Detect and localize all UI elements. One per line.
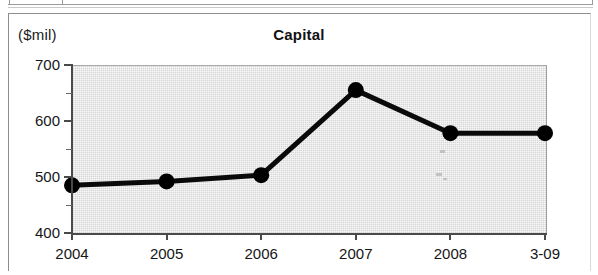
data-point-2006 <box>253 167 269 183</box>
table-fragment-rule-bottom <box>8 7 593 8</box>
data-point-2005 <box>159 173 175 189</box>
table-fragment-rule-top <box>8 4 593 5</box>
x-tick-2004 <box>71 233 73 240</box>
line-series-capital <box>72 66 546 234</box>
y-tick-label-400: 400 <box>0 225 60 240</box>
y-tick-label-700: 700 <box>0 57 60 72</box>
x-tick-label-2006: 2006 <box>221 245 301 262</box>
x-tick-label-2004: 2004 <box>32 245 112 262</box>
x-tick-2007 <box>355 233 357 240</box>
y-tick-label-600: 600 <box>0 113 60 128</box>
plot-area <box>72 65 547 234</box>
y-tick-700 <box>64 64 72 66</box>
x-tick-2008 <box>449 233 451 240</box>
chart-title: Capital <box>0 26 598 43</box>
x-tick-label-2005: 2005 <box>127 245 207 262</box>
x-tick-label-2007: 2007 <box>316 245 396 262</box>
table-fragment-divider-middle <box>62 0 63 5</box>
y-minor-tick-650 <box>66 93 72 94</box>
x-tick-label-3-09: 3-09 <box>505 245 585 262</box>
x-axis-line <box>71 233 547 235</box>
scanned-table-fragment <box>0 0 598 12</box>
data-point-2008 <box>442 125 458 141</box>
x-tick-3-09 <box>544 233 546 240</box>
data-point-3-09 <box>537 125 553 141</box>
series-line-capital <box>72 90 545 185</box>
x-tick-2005 <box>166 233 168 240</box>
y-tick-500 <box>64 176 72 178</box>
data-point-2007 <box>348 82 364 98</box>
table-fragment-divider-right <box>592 0 593 5</box>
x-tick-2006 <box>260 233 262 240</box>
series-markers-capital <box>64 82 553 193</box>
table-fragment-divider-left <box>9 0 10 5</box>
y-tick-label-500: 500 <box>0 169 60 184</box>
y-tick-600 <box>64 120 72 122</box>
y-minor-tick-550 <box>66 149 72 150</box>
x-tick-label-2008: 2008 <box>410 245 490 262</box>
y-minor-tick-450 <box>66 205 72 206</box>
